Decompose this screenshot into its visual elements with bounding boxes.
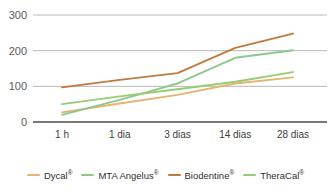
ytick-label-0: 0 [21, 116, 27, 128]
legend-swatch-icon [243, 174, 256, 176]
ytick-label-100: 100 [9, 80, 27, 92]
legend-item-theracal[interactable]: TheraCal® [243, 170, 304, 181]
chart-canvas: 01002003001 h1 dia3 dias14 dias28 dias [0, 0, 331, 160]
series-line-theracal [62, 72, 293, 104]
legend-item-biodentine[interactable]: Biodentine® [168, 170, 235, 181]
plot-area: 01002003001 h1 dia3 dias14 dias28 dias [0, 0, 331, 160]
legend-label: MTA Angelus® [98, 170, 158, 181]
line-chart: 01002003001 h1 dia3 dias14 dias28 dias D… [0, 0, 331, 190]
xtick-label-1: 1 dia [109, 129, 131, 140]
xtick-label-4: 28 dias [277, 129, 309, 140]
xtick-label-2: 3 dias [164, 129, 191, 140]
legend-swatch-icon [168, 174, 181, 176]
ytick-label-300: 300 [9, 9, 27, 21]
legend-label: Biodentine® [185, 170, 235, 181]
legend-swatch-icon [27, 174, 40, 176]
ytick-label-200: 200 [9, 45, 27, 57]
chart-legend: Dycal®MTA Angelus®Biodentine®TheraCal® [0, 160, 331, 190]
legend-label: Dycal® [44, 170, 73, 181]
legend-swatch-icon [81, 174, 94, 176]
legend-item-dycal[interactable]: Dycal® [27, 170, 73, 181]
series-line-biodentine [62, 34, 293, 88]
xtick-label-3: 14 dias [219, 129, 251, 140]
legend-item-mta-angelus[interactable]: MTA Angelus® [81, 170, 158, 181]
xtick-label-0: 1 h [55, 129, 69, 140]
legend-label: TheraCal® [260, 170, 304, 181]
